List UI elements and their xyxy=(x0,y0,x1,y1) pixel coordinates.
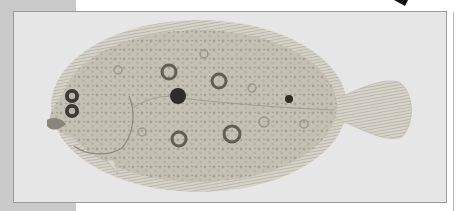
dark-spot xyxy=(285,95,293,103)
page-rule-line xyxy=(453,12,454,211)
fish-body xyxy=(61,30,337,182)
flatfish-illustration xyxy=(14,12,447,203)
dark-spot xyxy=(170,88,186,104)
illustration-frame xyxy=(13,11,447,203)
arrow-icon xyxy=(394,0,408,6)
